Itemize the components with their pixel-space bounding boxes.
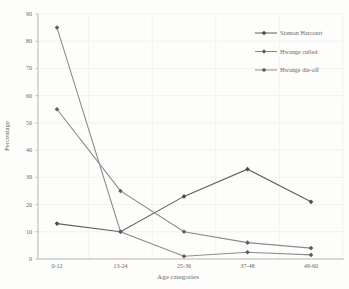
series-marker-stanton-harcourt	[309, 200, 314, 205]
series-marker-hwange-die-off	[118, 229, 123, 234]
line-chart: Percentage Age categories 01020304050607…	[0, 0, 349, 289]
y-tick-label: 40	[26, 147, 32, 153]
x-tick-label: 0-12	[52, 263, 63, 269]
y-axis-title: Percentage	[3, 121, 10, 151]
series-marker-hwange-die-off	[245, 250, 250, 255]
x-tick-label: 49-60	[304, 263, 318, 269]
series-line-stanton-harcourt	[57, 169, 311, 232]
series-marker-stanton-harcourt	[55, 221, 60, 226]
x-tick-label: 25-36	[177, 263, 191, 269]
series-line-hwange-culled	[57, 109, 311, 248]
series-marker-hwange-die-off	[309, 253, 314, 258]
y-tick-label: 0	[29, 256, 32, 262]
series-marker-hwange-culled	[309, 246, 314, 251]
y-tick-label: 80	[26, 38, 32, 44]
legend-label-hwange-die-off: Hwange die-off	[280, 66, 320, 73]
x-axis-title: Age categories	[157, 273, 199, 281]
legend-label-hwange-culled: Hwange culled	[280, 48, 318, 55]
series-marker-stanton-harcourt	[245, 167, 250, 172]
legend-marker-icon-hwange-culled	[262, 49, 267, 54]
legend-marker-icon-stanton-harcourt	[262, 31, 267, 36]
chart-page: Percentage Age categories 01020304050607…	[0, 0, 349, 289]
y-tick-label: 10	[26, 229, 32, 235]
y-tick-label: 20	[26, 202, 32, 208]
y-tick-label: 90	[26, 11, 32, 17]
y-tick-label: 60	[26, 93, 32, 99]
x-tick-label: 37-48	[241, 263, 255, 269]
y-tick-label: 70	[26, 65, 32, 71]
legend-label-stanton-harcourt: Stanton Harcourt	[280, 29, 323, 36]
series-line-hwange-die-off	[57, 28, 311, 257]
x-tick-label: 13-24	[114, 263, 128, 269]
series-marker-hwange-culled	[245, 240, 250, 245]
series-marker-hwange-die-off	[182, 254, 187, 259]
series-marker-hwange-die-off	[55, 25, 60, 30]
y-tick-label: 50	[26, 120, 32, 126]
series-marker-stanton-harcourt	[182, 194, 187, 199]
y-tick-label: 30	[26, 174, 32, 180]
